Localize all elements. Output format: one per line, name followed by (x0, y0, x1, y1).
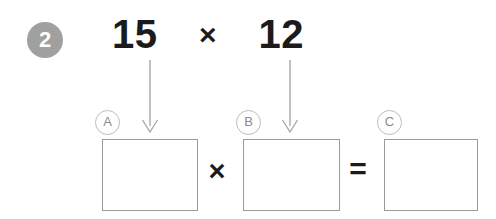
answer-box-b[interactable] (243, 139, 340, 211)
answer-box-c[interactable] (384, 139, 478, 211)
equals-sign-icon: = (344, 151, 372, 187)
arrow-down-icon-right (277, 60, 303, 136)
label-b: B (236, 110, 261, 135)
label-a: A (95, 110, 120, 135)
arrow-down-icon-left (137, 60, 163, 136)
label-c: C (377, 110, 402, 135)
answer-box-a[interactable] (102, 139, 198, 211)
problem-expression: 15 × 12 (112, 8, 304, 60)
expression-right-operand: 12 (259, 12, 305, 57)
worksheet-canvas: 2 15 × 12 A B C × = (0, 0, 496, 219)
multiplication-sign-icon: × (199, 18, 217, 52)
expression-left-operand: 15 (112, 12, 158, 57)
step-number-badge: 2 (27, 22, 63, 58)
multiplication-sign-icon-row: × (203, 153, 231, 189)
